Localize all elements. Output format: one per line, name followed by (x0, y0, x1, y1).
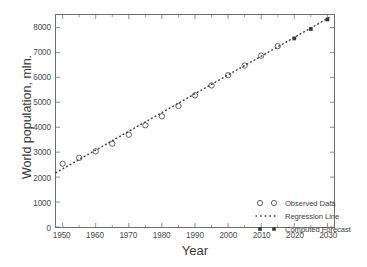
y-tick-label: 6000 (33, 72, 51, 81)
x-tick-label: 2020 (286, 231, 304, 240)
y-tick-label: 1000 (33, 198, 51, 207)
x-tick-label: 1950 (53, 231, 71, 240)
y-tick-label: 2000 (33, 173, 51, 182)
x-tick-label: 1960 (86, 231, 104, 240)
legend-item-observed-data: Observed Data (252, 197, 364, 209)
y-tick-label: 0 (47, 224, 51, 233)
x-tick-label: 1980 (153, 231, 171, 240)
x-tick-label: 2030 (319, 231, 337, 240)
y-tick-label: 8000 (33, 22, 51, 31)
data-layer (56, 15, 334, 227)
x-axis-title: Year (55, 243, 335, 258)
chart-figure: 010002000300040005000600070008000 World … (0, 0, 367, 267)
dotted-line-icon (252, 210, 282, 222)
x-tick-label: 1990 (186, 231, 204, 240)
y-tick-label: 5000 (33, 98, 51, 107)
x-tick-label: 2000 (219, 231, 237, 240)
y-tick-label: 7000 (33, 47, 51, 56)
y-tick-label: 3000 (33, 148, 51, 157)
x-axis-tick-labels: 195019601970198019902000201020202030 (55, 231, 335, 243)
legend-label-regression-line: Regression Line (282, 212, 339, 221)
plot-frame: Observed Data Regression Line Compute (55, 14, 335, 228)
x-tick-label: 2010 (253, 231, 271, 240)
plot-area (56, 15, 334, 227)
legend-label-observed-data: Observed Data (282, 199, 335, 208)
y-axis-title: World population, mln. (20, 10, 34, 224)
open-circle-icon (252, 197, 282, 209)
y-tick-label: 4000 (33, 123, 51, 132)
legend-item-regression-line: Regression Line (252, 210, 364, 222)
x-tick-label: 1970 (119, 231, 137, 240)
